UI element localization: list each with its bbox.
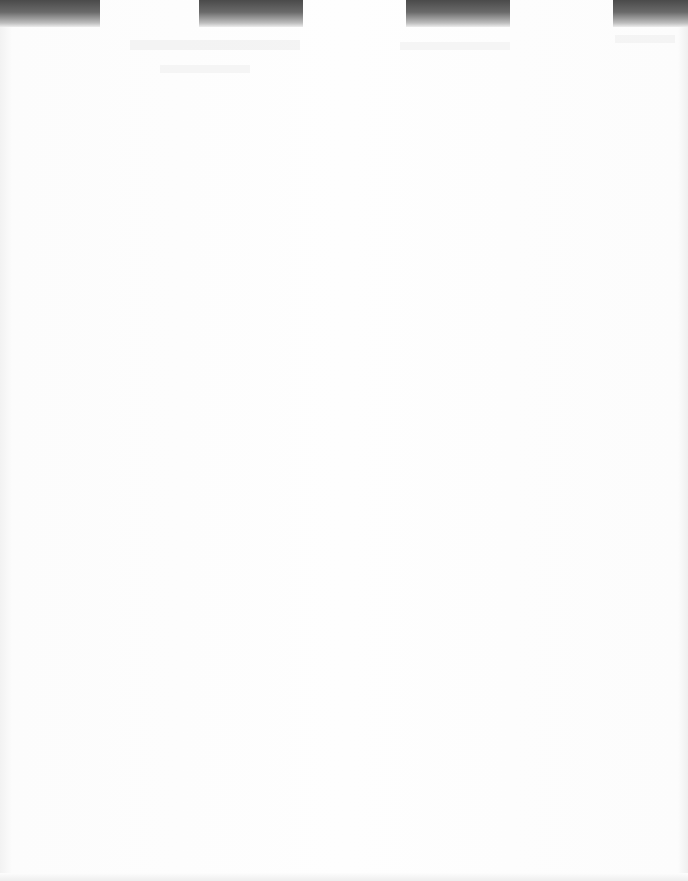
bleed-through-mark (130, 40, 300, 50)
bleed-through-mark (615, 35, 675, 43)
index-tab-1 (0, 0, 100, 27)
index-tab-2 (199, 0, 303, 27)
index-tab-4 (613, 0, 688, 27)
scanned-page (0, 0, 688, 881)
bleed-through-mark (160, 65, 250, 73)
page-bottom-edge (0, 873, 688, 881)
index-tab-3 (406, 0, 510, 27)
bleed-through-mark (400, 42, 510, 50)
